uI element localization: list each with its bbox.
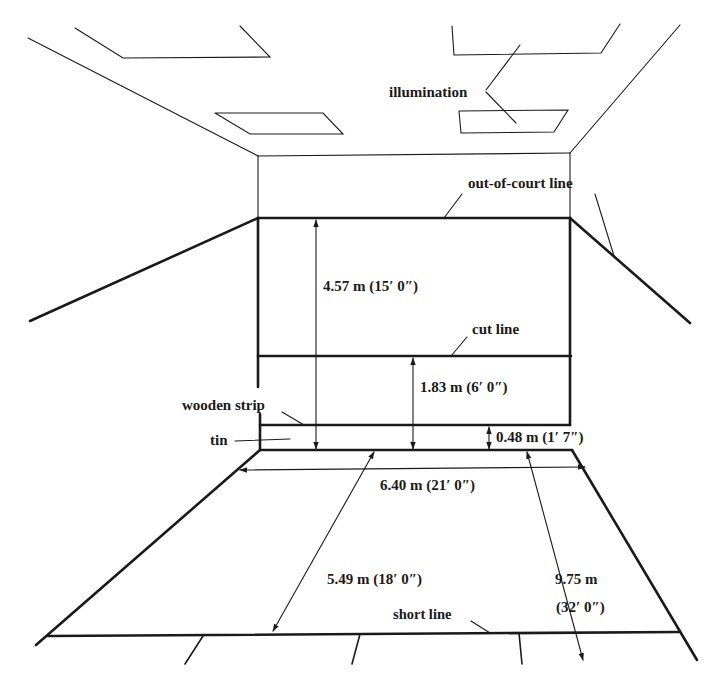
dimension-half-court-ft: (32′ 0″) [556,599,605,616]
squash-court-diagram: illumination out-of-court line cut line … [0,0,712,690]
leader-wooden-strip [282,412,304,425]
leader-short-line [471,621,490,633]
out-of-court-line [30,218,690,323]
dimension-out-of-court-height: 4.57 m (15′ 0″) [323,278,418,295]
leader-out-of-court-front [444,194,462,218]
dimension-cut-line-height: 1.83 m (6′ 0″) [420,379,508,396]
floor-left-edge [36,450,260,645]
dimension-arrow-short-line [273,452,374,631]
dimension-court-width: 6.40 m (21′ 0″) [380,477,475,494]
label-tin: tin [210,432,228,448]
ceiling [28,25,680,156]
leader-cut-line [451,337,467,356]
short-line [48,632,679,636]
dimension-arrow-court-width [240,467,585,470]
label-short-line: short line [393,606,452,622]
leader-tin [235,439,290,441]
illumination-fixtures [75,24,620,134]
label-wooden-strip: wooden strip [182,397,265,413]
dimension-arrow-half-court [527,452,583,660]
dimension-half-court-m: 9.75 m [555,571,598,587]
dimension-tin-height: 0.48 m (1′ 7″) [496,429,584,446]
label-out-of-court-line: out-of-court line [468,175,573,191]
floor-right-edge [572,450,697,660]
dimension-short-line-distance: 5.49 m (18′ 0″) [327,571,422,588]
floor-service-box-lines [185,633,522,664]
label-cut-line: cut line [472,321,519,337]
label-illumination: illumination [389,84,468,100]
